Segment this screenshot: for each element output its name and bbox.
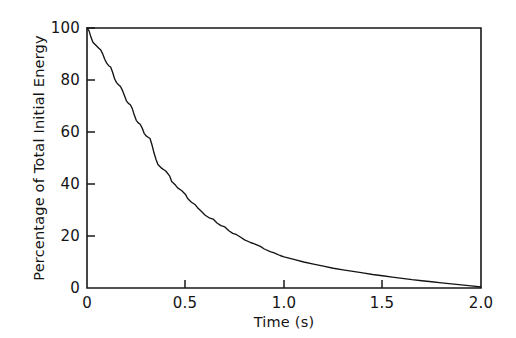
x-axis-ticks [185, 280, 382, 288]
y-axis-ticks [87, 28, 95, 236]
chart-svg: 100 80 60 40 20 0 0 0.5 1.0 1.5 2.0 Perc… [0, 0, 516, 338]
y-tick-label-40: 40 [61, 175, 81, 193]
x-tick-label-0: 0 [82, 294, 92, 312]
x-tick-label-1p5: 1.5 [370, 294, 394, 312]
plot-frame [87, 28, 481, 288]
y-tick-labels: 100 80 60 40 20 0 [51, 19, 80, 297]
x-axis-title: Time (s) [253, 314, 315, 330]
y-axis-title: Percentage of Total Initial Energy [31, 35, 47, 281]
y-tick-label-100: 100 [51, 19, 80, 37]
y-tick-label-60: 60 [61, 123, 81, 141]
energy-decay-figure: 100 80 60 40 20 0 0 0.5 1.0 1.5 2.0 Perc… [0, 0, 516, 338]
x-tick-labels: 0 0.5 1.0 1.5 2.0 [82, 294, 493, 312]
x-tick-label-2p0: 2.0 [469, 294, 493, 312]
y-tick-label-20: 20 [61, 227, 81, 245]
x-tick-label-0p5: 0.5 [173, 294, 197, 312]
y-tick-label-0: 0 [70, 279, 80, 297]
energy-decay-curve [87, 28, 481, 287]
x-tick-label-1p0: 1.0 [272, 294, 296, 312]
y-tick-label-80: 80 [61, 71, 81, 89]
